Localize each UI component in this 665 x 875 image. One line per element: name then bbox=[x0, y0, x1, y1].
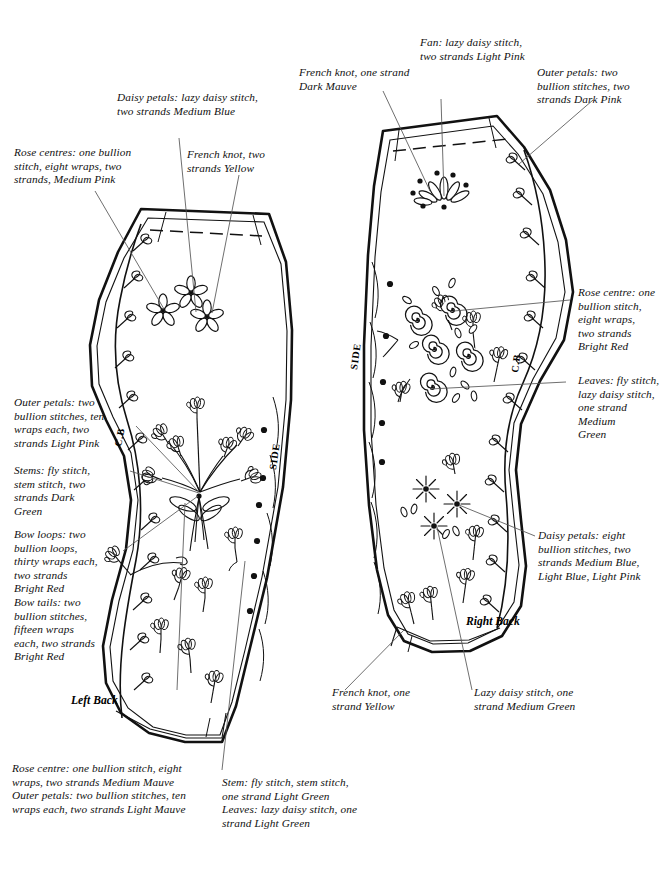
label-daisy-petals-medium-blue: Daisy petals: lazy daisy stitch, two str… bbox=[117, 91, 277, 118]
label-lazy-daisy-medium-green: Lazy daisy stitch, one strand Medium Gre… bbox=[474, 686, 624, 713]
label-daisy-petals-eight-bullion: Daisy petals: eight bullion stitches, tw… bbox=[538, 529, 664, 583]
label-french-knot-yellow-one: French knot, one strand Yellow bbox=[332, 686, 452, 713]
label-bow-loops-tails-bright-red: Bow loops: two bullion loops, thirty wra… bbox=[14, 528, 126, 664]
label-leaves-medium-green: Leaves: fly stitch, lazy daisy stitch, o… bbox=[578, 374, 664, 442]
diagram-page: C.B SIDE bbox=[0, 0, 665, 875]
label-outer-petals-light-pink: Outer petals: two bullion stitches, ten … bbox=[14, 396, 134, 450]
label-rose-medium-light-mauve: Rose centre: one bullion stitch, eight w… bbox=[12, 762, 222, 816]
right-back-side-label: SIDE bbox=[348, 342, 363, 370]
label-french-knot-dark-mauve: French knot, one strand Dark Mauve bbox=[299, 66, 449, 93]
label-fan-light-pink: Fan: lazy daisy stitch, two strands Ligh… bbox=[420, 36, 570, 63]
label-outer-petals-dark-pink: Outer petals: two bullion stitches, two … bbox=[537, 66, 663, 107]
label-french-knot-yellow-two: French knot, two strands Yellow bbox=[187, 148, 307, 175]
piece-label-left-back: Left Back bbox=[71, 694, 118, 707]
label-rose-centre-bright-red: Rose centre: one bullion stitch, eight w… bbox=[578, 286, 664, 354]
label-stems-dark-green: Stems: fly stitch, stem stitch, two stra… bbox=[14, 464, 124, 518]
label-stem-leaves-light-green: Stem: fly stitch, stem stitch, one stran… bbox=[222, 776, 382, 830]
piece-label-right-back: Right Back bbox=[466, 615, 520, 628]
label-rose-centres-medium-pink: Rose centres: one bullion stitch, eight … bbox=[14, 146, 164, 187]
